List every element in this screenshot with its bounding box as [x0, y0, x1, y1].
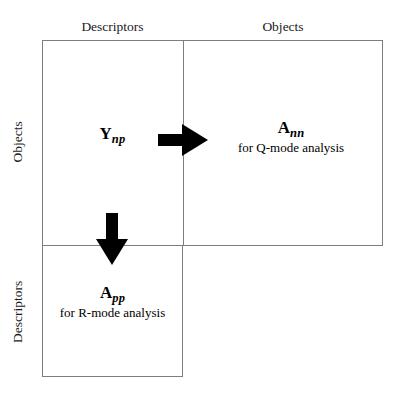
caption-q-mode: for Q-mode analysis	[199, 140, 383, 155]
matrix-subscript-nn: nn	[290, 126, 304, 140]
matrix-label-y: Ynp	[100, 124, 126, 143]
row-header-descriptors: Descriptors	[11, 262, 25, 362]
matrix-base-y: Y	[100, 124, 112, 143]
matrix-base-a-pp: A	[100, 283, 112, 302]
column-header-objects: Objects	[183, 20, 383, 34]
cell-r-mode-matrix: App for R-mode analysis	[42, 283, 183, 320]
arrow-right-icon	[158, 122, 208, 158]
column-header-descriptors: Descriptors	[42, 20, 183, 34]
cell-q-mode-matrix: Ann for Q-mode analysis	[199, 118, 383, 155]
association-matrix-diagram: Descriptors Objects Objects Descriptors …	[0, 0, 402, 402]
matrix-subscript-pp: pp	[112, 291, 125, 305]
matrix-label-ann: Ann	[199, 118, 383, 138]
arrow-down-icon	[94, 213, 130, 265]
row-header-objects: Objects	[11, 92, 25, 192]
matrix-label-app: App	[42, 283, 183, 303]
caption-r-mode: for R-mode analysis	[42, 305, 183, 320]
matrix-base-a-nn: A	[278, 118, 290, 137]
matrix-subscript-np: np	[112, 132, 126, 146]
